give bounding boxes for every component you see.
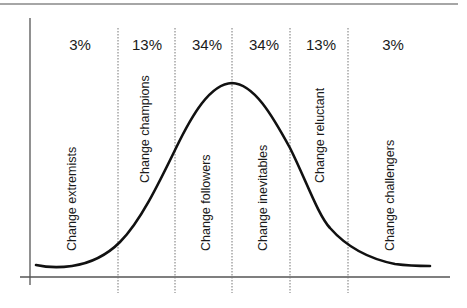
- label-reluctant: Change reluctant: [313, 88, 327, 183]
- percent-champions: 13%: [118, 36, 176, 53]
- percent-extremists: 3%: [51, 36, 109, 53]
- percent-reluctant: 13%: [292, 36, 350, 53]
- label-extremists: Change extremists: [65, 147, 79, 251]
- label-champions: Change champions: [138, 75, 152, 183]
- percent-challengers: 3%: [364, 36, 422, 53]
- label-inevitables: Change inevitables: [256, 145, 270, 251]
- percent-inevitables: 34%: [235, 36, 293, 53]
- label-followers: Change followers: [199, 154, 213, 251]
- percent-followers: 34%: [178, 36, 236, 53]
- label-challengers: Change challengers: [383, 140, 397, 251]
- bell-curve: [36, 83, 430, 267]
